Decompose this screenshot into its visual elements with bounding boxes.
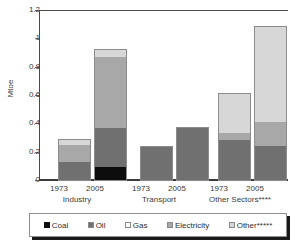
oil-swatch-icon xyxy=(88,222,94,228)
legend-label-other: Other***** xyxy=(237,221,273,230)
x-group-label-transport: Transport xyxy=(119,195,199,204)
bar-transport-1973[interactable] xyxy=(141,147,172,180)
legend-item-electricity[interactable]: Electricity xyxy=(167,221,209,230)
bar-segment-other xyxy=(255,27,286,122)
bar-segment-electricity xyxy=(59,145,90,163)
legend-item-coal[interactable]: Coal xyxy=(44,221,68,230)
bar-segment-coal xyxy=(95,167,126,180)
legend-item-oil[interactable]: Oil xyxy=(88,221,106,230)
bar-segment-electricity xyxy=(95,57,126,128)
y-tick-label-0.2: 0.2 xyxy=(10,148,40,156)
y-tick-label-0.6: 0.6 xyxy=(10,91,40,99)
x-group-label-industry: Industry xyxy=(37,195,117,204)
other-swatch-icon xyxy=(229,222,235,228)
legend-label-oil: Oil xyxy=(96,221,106,230)
y-tick-label-1.2: 1.2 xyxy=(10,6,40,14)
bar-segment-oil xyxy=(219,140,250,180)
x-tick-label-other-sectors-2005: 2005 xyxy=(233,184,277,193)
legend-item-gas[interactable]: Gas xyxy=(125,221,148,230)
y-tick-label-0.4: 0.4 xyxy=(10,119,40,127)
x-group-label-other-sectors: Other Sectors**** xyxy=(192,195,288,204)
bar-transport-2005[interactable] xyxy=(177,128,208,180)
bar-other-sectors-2005[interactable] xyxy=(255,27,286,180)
y-tick-label-0.8: 0.8 xyxy=(10,63,40,71)
y-tick-label-0: 0 xyxy=(10,176,40,184)
legend-label-gas: Gas xyxy=(133,221,148,230)
bar-segment-oil xyxy=(59,162,90,180)
bar-segment-oil xyxy=(95,128,126,167)
bar-segment-other xyxy=(95,50,126,57)
electricity-swatch-icon xyxy=(167,222,173,228)
bar-other-sectors-1973[interactable] xyxy=(219,94,250,180)
legend-item-other[interactable]: Other***** xyxy=(229,221,273,230)
legend-label-coal: Coal xyxy=(52,221,68,230)
bar-industry-1973[interactable] xyxy=(59,140,90,180)
legend-label-electricity: Electricity xyxy=(175,221,209,230)
x-tick-label-industry-2005: 2005 xyxy=(73,184,117,193)
x-tick-label-transport-2005: 2005 xyxy=(155,184,199,193)
coal-swatch-icon xyxy=(44,222,50,228)
bars-layer xyxy=(39,10,288,180)
bar-segment-other xyxy=(219,94,250,134)
bar-industry-2005[interactable] xyxy=(95,50,126,180)
gas-swatch-icon xyxy=(125,222,131,228)
y-tick-label-1: 1 xyxy=(10,34,40,42)
y-axis-title: Mtoe xyxy=(6,67,15,111)
bar-segment-electricity xyxy=(255,122,286,146)
bar-segment-oil xyxy=(141,147,172,180)
stacked-bar-chart: Mtoe 1.2 1 0.8 0.6 0.4 0.2 0 1973 2005 1… xyxy=(0,0,298,244)
legend: Coal Oil Gas Electricity Other***** xyxy=(29,213,287,237)
bar-segment-oil xyxy=(255,146,286,180)
bar-segment-oil xyxy=(177,128,208,180)
